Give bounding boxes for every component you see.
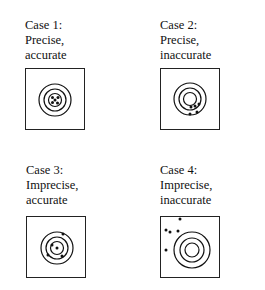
case-heading: Case 2: xyxy=(160,18,211,33)
target-box-4 xyxy=(160,216,220,278)
shot-dot xyxy=(62,233,65,236)
shot-dot xyxy=(177,230,180,233)
shot-dot xyxy=(47,254,50,257)
target-box-3 xyxy=(26,216,86,278)
bullseye-target-icon xyxy=(26,69,86,131)
shot-dot xyxy=(179,218,182,221)
shot-dot xyxy=(165,249,168,252)
shot-dot xyxy=(57,96,60,99)
case-accuracy: accurate xyxy=(25,48,67,63)
case-precision: Precise, xyxy=(25,33,67,48)
case-label: Case 1: Precise, accurate xyxy=(25,18,67,63)
case-label: Case 4: Imprecise, inaccurate xyxy=(160,163,212,208)
case-precision: Imprecise, xyxy=(26,178,78,193)
shot-dot xyxy=(56,247,59,250)
bullseye-target-icon xyxy=(161,217,221,279)
bullseye-target-icon xyxy=(27,217,87,279)
shot-dot xyxy=(61,255,64,258)
case-label: Case 3: Imprecise, accurate xyxy=(26,163,78,208)
shot-dot xyxy=(51,96,54,99)
case-heading: Case 4: xyxy=(160,163,212,178)
shot-dot xyxy=(194,105,197,108)
shot-dot xyxy=(54,99,57,102)
target-box-2 xyxy=(160,68,220,130)
target-box-1 xyxy=(25,68,85,130)
case-precision: Precise, xyxy=(160,33,211,48)
target-ring xyxy=(184,93,197,106)
shot-dot xyxy=(56,102,59,105)
shot-dot xyxy=(190,106,193,109)
bullseye-target-icon xyxy=(161,69,221,131)
shot-dot xyxy=(169,231,172,234)
target-ring xyxy=(185,243,199,257)
target-ring xyxy=(180,238,204,262)
shot-dot xyxy=(198,103,201,106)
shot-dot xyxy=(165,229,168,232)
shot-dot xyxy=(51,244,54,247)
case-accuracy: inaccurate xyxy=(160,48,211,63)
case-heading: Case 3: xyxy=(26,163,78,178)
case-label: Case 2: Precise, inaccurate xyxy=(160,18,211,63)
case-heading: Case 1: xyxy=(25,18,67,33)
shot-dot xyxy=(189,113,192,116)
case-precision: Imprecise, xyxy=(160,178,212,193)
shot-dot xyxy=(51,101,54,104)
case-accuracy: inaccurate xyxy=(160,193,212,208)
case-accuracy: accurate xyxy=(26,193,78,208)
target-ring xyxy=(174,232,210,268)
shot-dot xyxy=(196,111,199,114)
